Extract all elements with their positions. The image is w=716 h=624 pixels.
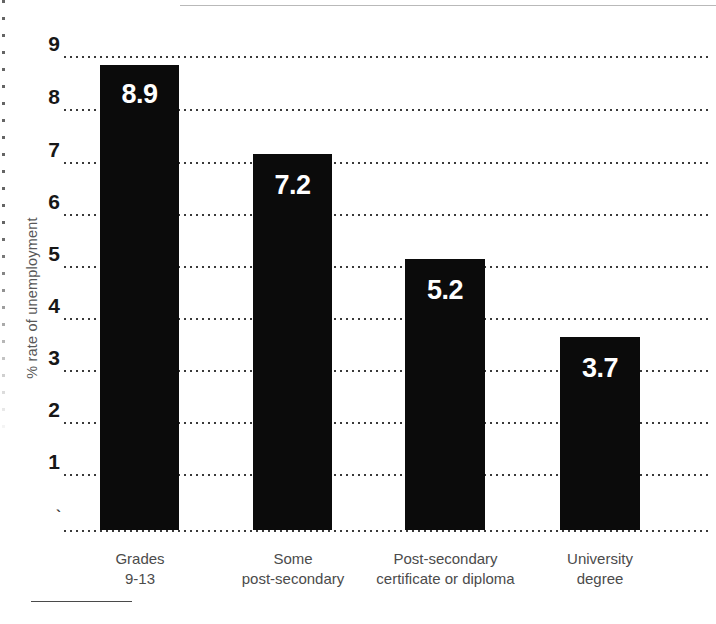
y-tick-0: `	[30, 508, 60, 523]
bar-post-secondary-certificate[interactable]: 5.2	[405, 259, 485, 530]
x-label-university-degree: University degree	[535, 549, 665, 589]
chart-page: % rate of unemployment 9 8 7 6 5 4 3 2 1…	[0, 0, 716, 624]
x-label-line-2: certificate or diploma	[363, 569, 528, 589]
y-tick-5: 5	[30, 243, 60, 264]
bar-university-degree[interactable]: 3.7	[560, 337, 640, 530]
y-tick-7: 7	[30, 139, 60, 160]
x-label-grades-9-13: Grades 9-13	[80, 549, 200, 589]
x-label-line-2: 9-13	[80, 569, 200, 589]
y-tick-9: 9	[30, 33, 60, 54]
bar-value-label: 5.2	[405, 277, 485, 304]
y-tick-3: 3	[30, 347, 60, 368]
x-label-post-secondary-certificate: Post-secondary certificate or diploma	[363, 549, 528, 589]
y-tick-2: 2	[30, 399, 60, 420]
x-label-line-1: Some	[273, 550, 312, 567]
y-tick-1: 1	[30, 451, 60, 472]
x-label-line-1: Grades	[115, 550, 164, 567]
y-tick-4: 4	[30, 295, 60, 316]
y-axis-ticks: 9 8 7 6 5 4 3 2 1 `	[28, 0, 60, 624]
x-label-line-2: post-secondary	[215, 569, 371, 589]
plot-area: % rate of unemployment 9 8 7 6 5 4 3 2 1…	[0, 0, 716, 624]
x-label-line-1: University	[567, 550, 633, 567]
y-tick-6: 6	[30, 191, 60, 212]
x-label-line-1: Post-secondary	[393, 550, 497, 567]
bar-grades-9-13[interactable]: 8.9	[100, 65, 179, 530]
y-tick-8: 8	[30, 86, 60, 107]
x-label-line-2: degree	[535, 569, 665, 589]
bar-value-label: 8.9	[100, 81, 179, 108]
gridline-9	[62, 56, 712, 58]
bar-some-post-secondary[interactable]: 7.2	[253, 154, 332, 530]
gridline-baseline	[62, 530, 712, 532]
bar-value-label: 7.2	[253, 172, 332, 199]
x-label-some-post-secondary: Some post-secondary	[215, 549, 371, 589]
bar-value-label: 3.7	[560, 355, 640, 382]
